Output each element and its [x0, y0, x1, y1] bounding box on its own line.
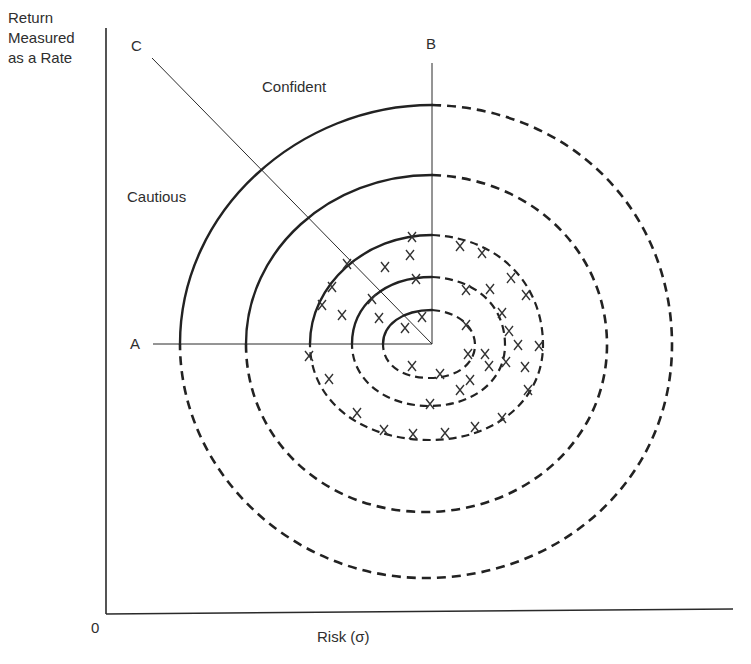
- x-marker: [498, 308, 506, 318]
- diagram-canvas: [0, 0, 751, 664]
- x-marker: [375, 313, 383, 323]
- x-axis: [106, 609, 733, 614]
- ring-1-solid: [180, 105, 432, 344]
- x-marker: [401, 323, 409, 333]
- x-marker: [409, 429, 417, 439]
- x-marker: [436, 369, 444, 379]
- x-marker: [381, 262, 389, 272]
- x-marker: [338, 310, 346, 320]
- x-marker: [486, 284, 494, 294]
- x-marker: [485, 361, 493, 371]
- x-marker: [462, 285, 470, 295]
- x-marker: [505, 326, 513, 336]
- ring-5-solid: [383, 310, 432, 344]
- x-marker: [471, 422, 479, 432]
- x-marker: [466, 375, 474, 385]
- x-marker: [521, 362, 529, 372]
- x-marker: [462, 320, 470, 330]
- x-marker: [481, 349, 489, 359]
- x-marker: [380, 425, 388, 435]
- x-marker: [478, 248, 486, 258]
- x-marker: [456, 385, 464, 395]
- x-marker: [408, 361, 416, 371]
- x-marker: [464, 349, 472, 359]
- line-c: [152, 58, 432, 344]
- x-marker: [507, 273, 515, 283]
- rings-solid: [180, 105, 432, 344]
- x-marker: [502, 357, 510, 367]
- x-marker: [535, 341, 543, 351]
- x-marker: [522, 290, 530, 300]
- x-marker: [353, 408, 361, 418]
- reference-lines: [152, 58, 432, 344]
- x-marker: [456, 241, 464, 251]
- x-marker: [418, 312, 426, 322]
- x-marker: [441, 428, 449, 438]
- x-marker: [498, 413, 506, 423]
- x-marker: [406, 250, 414, 260]
- x-marker: [426, 399, 434, 409]
- x-marker: [325, 374, 333, 384]
- x-marker: [514, 340, 522, 350]
